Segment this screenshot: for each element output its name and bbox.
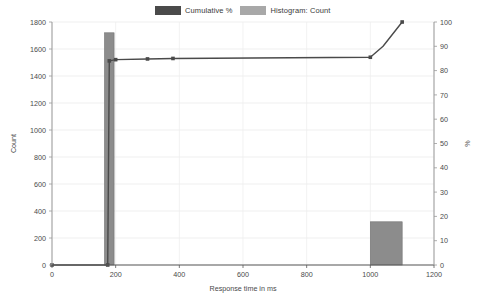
y-tick-label: 800 [34,153,46,162]
histogram-bars [105,33,403,265]
y2-tick-label: 60 [440,115,448,124]
cumulative-line-marker [108,59,112,63]
y-tick-label: 400 [34,207,46,216]
x-tick-label: 0 [50,270,54,279]
y-tick-label: 0 [42,261,46,270]
cumulative-line [50,20,404,267]
y2-tick-label: 90 [440,42,448,51]
y2-axis-title: % [463,140,472,147]
cumulative-line-marker [369,55,373,59]
y2-tick-label: 0 [440,261,444,270]
y2-tick-label: 40 [440,163,448,172]
y2-tick-label: 100 [440,18,452,27]
y-tick-label: 600 [34,180,46,189]
cumulative-line-marker [146,57,150,61]
y-tick-label: 1400 [30,72,46,81]
chart-svg: 0200400600800100012001400160018000102030… [0,0,485,300]
y2-tick-label: 70 [440,91,448,100]
histogram-bar [370,222,402,265]
y-tick-label: 1800 [30,18,46,27]
chart-container: Cumulative % Histogram: Count 0200400600… [0,0,485,300]
x-tick-label: 400 [173,270,185,279]
x-tick-label: 600 [237,270,249,279]
cumulative-line-marker [171,57,175,61]
x-tick-label: 200 [110,270,122,279]
y2-tick-label: 30 [440,188,448,197]
x-tick-label: 1000 [362,270,378,279]
y2-tick-label: 80 [440,66,448,75]
x-axis-title: Response time in ms [209,284,277,293]
y-tick-label: 1000 [30,126,46,135]
y-axis-title: Count [9,134,18,153]
x-tick-label: 1200 [426,270,442,279]
y-tick-label: 1200 [30,99,46,108]
cumulative-line-marker [400,20,404,24]
y2-tick-label: 50 [440,139,448,148]
y-tick-label: 1600 [30,45,46,54]
x-tick-label: 800 [301,270,313,279]
cumulative-line-marker [114,58,118,62]
y2-tick-label: 20 [440,212,448,221]
y-tick-label: 200 [34,234,46,243]
y2-tick-label: 10 [440,236,448,245]
